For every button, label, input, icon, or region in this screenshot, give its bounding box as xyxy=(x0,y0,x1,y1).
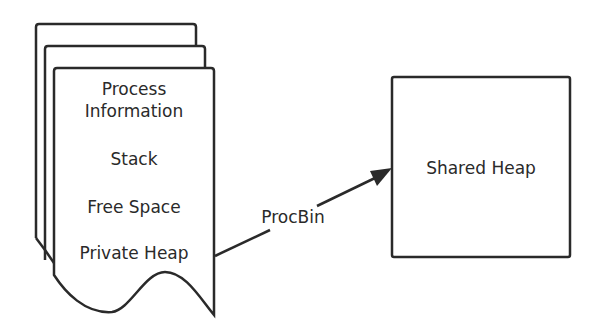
shared-heap-label: Shared Heap xyxy=(392,157,570,179)
private-heap-label: Private Heap xyxy=(54,242,214,264)
arrow-head-icon xyxy=(370,168,392,186)
procbin-arrow-line xyxy=(215,230,270,256)
process-information-label: Process Information xyxy=(54,78,214,122)
process-label-line1: Process xyxy=(54,78,214,100)
stack-label: Stack xyxy=(54,148,214,170)
procbin-label: ProcBin xyxy=(248,206,338,228)
information-label-line2: Information xyxy=(54,100,214,122)
free-space-label: Free Space xyxy=(54,196,214,218)
